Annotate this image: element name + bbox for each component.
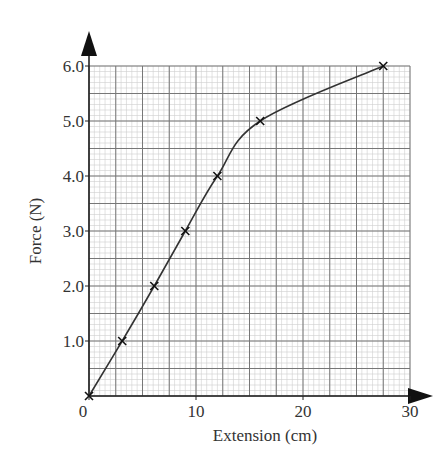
x-tick-label: 0 xyxy=(79,402,88,421)
y-tick-labels: 1.02.03.04.05.06.0 xyxy=(63,57,89,351)
y-tick-label: 1.0 xyxy=(63,332,84,351)
y-axis-arrow-icon xyxy=(81,31,97,56)
x-tick-labels: 0102030 xyxy=(79,396,419,421)
y-tick-label: 4.0 xyxy=(63,167,84,186)
x-tick-label: 30 xyxy=(402,402,419,421)
y-tick-label: 5.0 xyxy=(63,112,84,131)
y-tick-label: 6.0 xyxy=(63,57,84,76)
force-extension-chart: 0102030 1.02.03.04.05.06.0 Extension (cm… xyxy=(0,0,444,469)
axes xyxy=(81,31,433,404)
x-tick-label: 20 xyxy=(295,402,312,421)
x-axis-title: Extension (cm) xyxy=(213,426,317,445)
y-tick-label: 2.0 xyxy=(63,277,84,296)
y-tick-label: 3.0 xyxy=(63,222,84,241)
y-axis-title: Force (N) xyxy=(26,198,45,265)
x-tick-label: 10 xyxy=(188,402,205,421)
